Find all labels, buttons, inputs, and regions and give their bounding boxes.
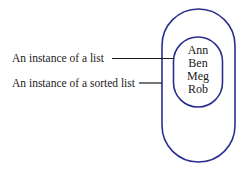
list-item: Ann [188,43,209,57]
sorted-list-label: An instance of a sorted list [12,77,136,89]
list-item: Ben [188,56,207,70]
list-item: Meg [187,69,209,83]
list-containment-diagram: An instance of a list An instance of a s… [0,0,251,171]
list-label: An instance of a list [12,52,105,64]
list-item: Rob [188,82,208,96]
